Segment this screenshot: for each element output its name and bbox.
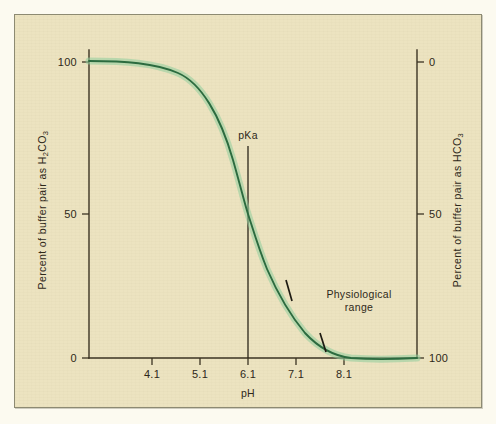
titration-curve [89,61,417,359]
scan-page: 100 50 0 0 50 100 4.1 5.1 6.1 [0,0,496,424]
curve-highlight-band [89,61,417,359]
y2-axis-title: Percent of buffer pair as HCO3 [451,133,465,287]
y-axis-title-mid: CO [36,135,48,152]
physiological-range-label-line1: Physiological [326,288,391,300]
figure-frame: 100 50 0 0 50 100 4.1 5.1 6.1 [14,14,482,408]
pka-label: pKa [238,129,258,141]
left-tick-label-0: 0 [71,352,77,364]
buffer-titration-chart: 100 50 0 0 50 100 4.1 5.1 6.1 [15,15,483,409]
y2-axis-title-sub-3: 3 [456,133,465,138]
physiological-range-label-line2: range [345,301,373,313]
x-tick-label-6-1: 6.1 [240,368,256,380]
x-tick-label-7-1: 7.1 [288,368,304,380]
left-tick-label-50: 50 [64,208,77,220]
x-tick-label-8-1: 8.1 [336,368,352,380]
x-axis-title: pH [241,387,255,399]
x-tick-label-4-1: 4.1 [144,368,160,380]
y-axis-title: Percent of buffer pair as H2CO3 [36,131,50,290]
y-axis-title-prefix: Percent of buffer pair as H [36,156,48,289]
bottom-axis-ticks [152,358,344,365]
x-tick-label-5-1: 5.1 [192,368,208,380]
right-tick-label-100: 100 [429,352,448,364]
right-tick-label-50: 50 [429,208,442,220]
right-tick-label-0: 0 [429,56,435,68]
physiological-range-start-tick [286,280,292,301]
y2-axis-title-prefix: Percent of buffer pair as HCO [451,137,463,287]
y-axis-title-sub-3: 3 [41,131,50,136]
left-axis-ticks [82,62,89,358]
right-axis-ticks [417,62,424,358]
left-tick-label-100: 100 [58,56,77,68]
